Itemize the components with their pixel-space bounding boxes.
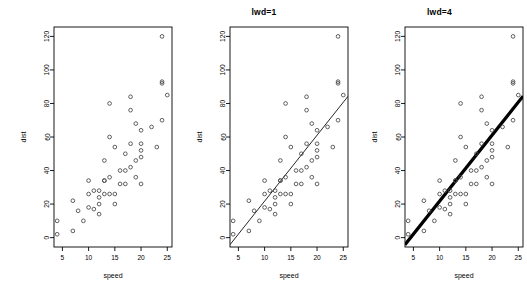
data-point <box>129 165 133 169</box>
x-tick-label: 25 <box>340 254 348 261</box>
x-tick-label: 25 <box>515 254 523 261</box>
y-tick-label: 40 <box>395 167 402 175</box>
data-point <box>501 125 505 129</box>
data-point <box>305 142 309 146</box>
data-point <box>118 182 122 186</box>
plot-panel-lwd1: lwd=1 020406080100120510152025speeddist <box>176 0 352 297</box>
data-point <box>284 192 288 196</box>
data-point <box>490 149 494 153</box>
data-point <box>422 229 426 233</box>
y-tick-label: 0 <box>220 235 227 239</box>
data-point <box>459 135 463 139</box>
data-point <box>139 142 143 146</box>
data-point <box>231 232 235 236</box>
x-tick-label: 25 <box>164 254 172 261</box>
y-tick-label: 20 <box>395 200 402 208</box>
data-point <box>268 189 272 193</box>
data-point <box>113 145 117 149</box>
data-point <box>289 202 293 206</box>
data-point <box>305 108 309 112</box>
y-tick-label: 0 <box>395 235 402 239</box>
data-point <box>231 219 235 223</box>
data-point <box>454 192 458 196</box>
y-tick-label: 120 <box>395 31 402 42</box>
data-point <box>108 135 112 139</box>
data-point <box>92 189 96 193</box>
data-point <box>97 196 101 200</box>
x-tick-label: 20 <box>488 254 496 261</box>
y-tick-label: 80 <box>395 99 402 107</box>
data-point <box>294 169 298 173</box>
x-tick-label: 10 <box>436 254 444 261</box>
x-tick-label: 5 <box>412 254 416 261</box>
x-tick-label: 20 <box>313 254 321 261</box>
data-point <box>139 155 143 159</box>
data-point <box>87 179 91 183</box>
data-point <box>123 152 127 156</box>
data-point <box>268 207 272 211</box>
data-point <box>103 192 107 196</box>
data-point <box>55 219 59 223</box>
data-point <box>150 125 154 129</box>
y-axis-title: dist <box>20 132 27 143</box>
data-point <box>490 182 494 186</box>
data-point <box>76 209 80 213</box>
data-point <box>87 192 91 196</box>
data-point <box>315 155 319 159</box>
data-point <box>315 142 319 146</box>
regression-line <box>405 96 523 244</box>
data-point <box>139 128 143 132</box>
data-point <box>485 175 489 179</box>
x-tick-label: 5 <box>237 254 241 261</box>
data-point <box>336 118 340 122</box>
data-point <box>506 145 510 149</box>
data-point <box>108 192 112 196</box>
data-point <box>490 128 494 132</box>
data-point <box>459 102 463 106</box>
x-axis-title: speed <box>103 272 122 280</box>
y-axis-title: dist <box>196 132 203 143</box>
data-point <box>139 182 143 186</box>
y-tick-label: 60 <box>44 133 51 141</box>
x-tick-label: 20 <box>137 254 145 261</box>
data-point <box>294 182 298 186</box>
data-point <box>464 192 468 196</box>
data-point <box>273 196 277 200</box>
data-point <box>55 232 59 236</box>
data-point <box>438 179 442 183</box>
data-point <box>464 145 468 149</box>
plot-panel-lwd4: lwd=4 020406080100120510152025speeddist <box>352 0 527 297</box>
data-point <box>284 135 288 139</box>
data-point <box>279 192 283 196</box>
data-point <box>97 189 101 193</box>
plot-frame <box>230 27 348 247</box>
x-axis-title: speed <box>454 272 473 280</box>
data-point <box>459 192 463 196</box>
data-point <box>326 125 330 129</box>
y-tick-label: 120 <box>44 31 51 42</box>
data-point <box>315 182 319 186</box>
data-point <box>480 95 484 99</box>
y-tick-label: 100 <box>395 64 402 75</box>
data-point <box>299 169 303 173</box>
data-point <box>284 102 288 106</box>
data-point <box>485 159 489 163</box>
data-point <box>103 159 107 163</box>
y-tick-label: 40 <box>44 167 51 175</box>
data-points <box>55 35 169 237</box>
data-point <box>448 202 452 206</box>
data-point <box>71 229 75 233</box>
x-tick-label: 10 <box>85 254 93 261</box>
data-point <box>406 232 410 236</box>
data-point <box>71 199 75 203</box>
y-axis-title: dist <box>371 132 378 143</box>
data-point <box>490 155 494 159</box>
data-point <box>474 169 478 173</box>
data-point <box>123 169 127 173</box>
data-point <box>155 145 159 149</box>
scatter-plot-lwd1: 020406080100120510152025speeddist <box>176 0 352 297</box>
y-tick-label: 60 <box>395 133 402 141</box>
data-point <box>289 192 293 196</box>
data-points <box>231 35 345 237</box>
y-tick-label: 60 <box>220 133 227 141</box>
